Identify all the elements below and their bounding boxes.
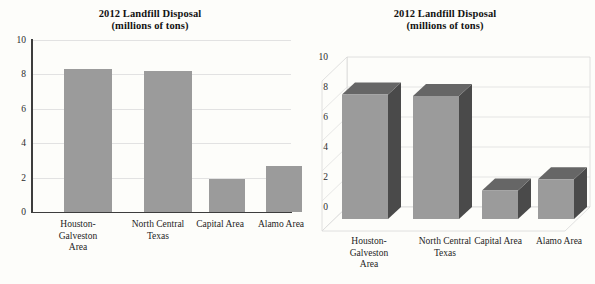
bar3d-north-central-texas-front-face xyxy=(413,96,459,219)
y-tick-left-8: 8 xyxy=(0,69,26,79)
y-tick-right-4: 4 xyxy=(302,142,328,152)
right-3d-bar-chart: 2012 Landfill Disposal (millions of tons… xyxy=(300,0,595,284)
bar-north-central-texas xyxy=(144,71,192,212)
y-tick-right-10: 10 xyxy=(302,52,328,62)
bar3d-alamo-area-front-face xyxy=(538,179,574,219)
bar-houston-galveston xyxy=(64,69,112,212)
bar-capital-area xyxy=(209,179,245,212)
chart-title-left-main: 2012 Landfill Disposal xyxy=(60,8,240,20)
y-tick-left-10: 10 xyxy=(0,35,26,45)
y-tick-left-0: 0 xyxy=(0,207,26,217)
plot-area-left xyxy=(32,40,291,212)
y-axis-line-left xyxy=(31,39,33,213)
y-tick-left-2: 2 xyxy=(0,173,26,183)
chart-title-left-sub: (millions of tons) xyxy=(60,20,240,32)
bar3d-north-central-texas-side-face xyxy=(459,84,472,219)
chart-title-left: 2012 Landfill Disposal (millions of tons… xyxy=(60,8,240,31)
y-tick-left-4: 4 xyxy=(0,138,26,148)
y-tick-right-0: 0 xyxy=(302,202,328,212)
bar3d-alamo-area xyxy=(538,167,587,219)
bar3d-capital-area-front-face xyxy=(482,191,518,220)
y-tick-right-8: 8 xyxy=(302,82,328,92)
bar-alamo-area xyxy=(266,166,302,212)
screenshot-root: 2012 Landfill Disposal (millions of tons… xyxy=(0,0,595,284)
left-2d-bar-chart: 2012 Landfill Disposal (millions of tons… xyxy=(0,0,300,284)
y-tick-left-6: 6 xyxy=(0,104,26,114)
bar3d-houston-galveston-side-face xyxy=(388,83,401,220)
bar3d-houston-galveston xyxy=(342,83,401,220)
gridline-10 xyxy=(32,40,291,41)
x-label-left-houston-galveston: Houston- Galveston Area xyxy=(34,219,122,254)
bar3d-capital-area xyxy=(482,179,531,220)
x-axis-line-left xyxy=(31,212,292,214)
y-tick-right-2: 2 xyxy=(302,172,328,182)
bar3d-north-central-texas xyxy=(413,84,472,219)
bar3d-houston-galveston-front-face xyxy=(342,95,388,220)
y-tick-right-6: 6 xyxy=(302,112,328,122)
x-label-right-alamo-area: Alamo Area xyxy=(522,236,595,248)
